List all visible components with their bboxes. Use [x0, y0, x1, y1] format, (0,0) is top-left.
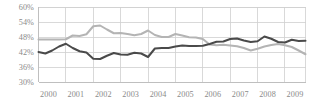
x-axis-tick-label: 2000 [40, 90, 57, 99]
x-axis-tick-label: 2007 [232, 90, 249, 99]
y-axis-tick-label: 30% [19, 78, 34, 87]
chart-container: 60%54%48%42%36%30% 200020012002200320042… [0, 0, 313, 109]
x-axis-tick-label: 2002 [95, 90, 112, 99]
x-axis-tick-label: 2003 [122, 90, 139, 99]
series-line-dark-series [39, 37, 306, 60]
series-group [39, 26, 306, 60]
y-axis-tick-label: 60% [19, 3, 34, 12]
line-chart: 60%54%48%42%36%30% 200020012002200320042… [0, 0, 313, 109]
x-axis-tick-label: 2001 [67, 90, 84, 99]
y-axis-tick-label: 36% [19, 63, 34, 72]
gridlines-group [39, 7, 306, 82]
y-axis-labels: 60%54%48%42%36%30% [19, 3, 34, 87]
x-axis-tick-label: 2004 [150, 90, 167, 99]
x-axis-tick-label: 2006 [204, 90, 221, 99]
x-axis-labels: 2000200120022003200420052006200720082009 [40, 90, 303, 99]
y-axis-tick-label: 42% [19, 48, 34, 57]
y-axis-tick-label: 54% [19, 18, 34, 27]
y-axis-tick-label: 48% [19, 33, 34, 42]
x-axis-tick-label: 2009 [287, 90, 304, 99]
x-axis-tick-label: 2008 [259, 90, 276, 99]
x-axis-tick-label: 2005 [177, 90, 194, 99]
